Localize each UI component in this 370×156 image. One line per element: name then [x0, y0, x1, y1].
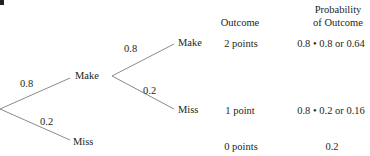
outcome-row-3: 0 points	[224, 141, 258, 153]
prob-first-make: 0.8	[20, 78, 33, 90]
node-first-make: Make	[75, 70, 99, 82]
node-second-miss: Miss	[178, 104, 198, 116]
header-probability-line2: of Outcome	[313, 17, 363, 29]
header-probability-line1: Probability	[315, 4, 362, 16]
branch-first-miss	[0, 109, 70, 140]
node-second-make: Make	[178, 37, 202, 49]
branch-second-make	[112, 44, 174, 76]
prob-second-make: 0.8	[124, 43, 137, 55]
node-first-miss: Miss	[73, 136, 93, 148]
branch-first-make	[0, 78, 70, 109]
probability-row-1: 0.8 • 0.8 or 0.64	[297, 38, 365, 50]
probability-row-2: 0.8 • 0.2 or 0.16	[297, 105, 365, 117]
outcome-row-1: 2 points	[224, 38, 258, 50]
prob-second-miss: 0.2	[143, 85, 156, 97]
prob-first-miss: 0.2	[40, 116, 53, 128]
probability-row-3: 0.2	[325, 141, 338, 153]
header-outcome: Outcome	[221, 17, 260, 29]
outcome-row-2: 1 point	[225, 105, 254, 117]
